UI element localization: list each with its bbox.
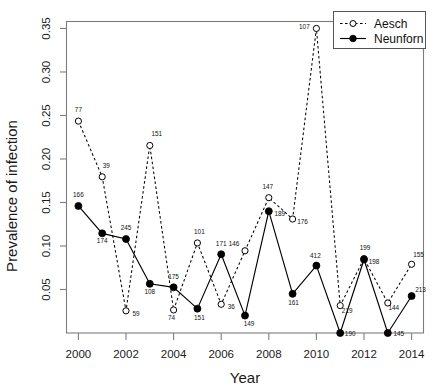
prevalence-line-chart: Prevalence of infection Year 0.050.100.1…	[0, 0, 432, 391]
data-point-neunforn-2007[interactable]	[242, 312, 249, 319]
data-point-label-neunforn-2012: 198	[369, 258, 380, 265]
x-axis-title: Year	[230, 369, 260, 386]
data-point-aesch-2002[interactable]	[123, 308, 129, 314]
data-point-label-aesch-2005: 101	[194, 228, 205, 235]
data-point-label-aesch-2010: 107	[299, 23, 310, 30]
data-point-aesch-2014[interactable]	[409, 261, 415, 267]
legend-marker-aesch	[350, 21, 356, 27]
chart-background	[0, 0, 432, 391]
data-point-neunforn-2004[interactable]	[170, 284, 177, 291]
data-point-label-neunforn-2005: 151	[194, 314, 205, 321]
data-point-neunforn-2006[interactable]	[218, 251, 225, 258]
legend: Aesch Neunforn	[334, 12, 426, 49]
data-point-label-aesch-2013: 144	[388, 304, 399, 311]
data-point-label-neunforn-2009: 161	[288, 299, 299, 306]
x-tick-label: 2000	[66, 348, 92, 360]
data-point-neunforn-2011[interactable]	[337, 330, 344, 337]
x-tick-label: 2002	[113, 348, 139, 360]
data-point-label-neunforn-2014: 213	[415, 286, 426, 293]
data-point-aesch-2005[interactable]	[194, 240, 200, 246]
data-point-aesch-2009[interactable]	[290, 216, 296, 222]
data-point-neunforn-2002[interactable]	[123, 236, 130, 243]
data-point-label-aesch-2003: 151	[151, 130, 162, 137]
data-point-aesch-2007[interactable]	[242, 248, 248, 254]
legend-marker-neunforn	[350, 35, 357, 42]
x-tick-label: 2004	[161, 348, 187, 360]
data-point-neunforn-2014[interactable]	[408, 293, 415, 300]
y-axis-title: Prevalence of infection	[3, 120, 20, 272]
data-point-label-neunforn-2001: 174	[97, 237, 108, 244]
data-point-label-neunforn-2002: 245	[121, 224, 132, 231]
data-point-label-aesch-2008: 147	[262, 183, 273, 190]
y-tick-label: 0.35	[40, 17, 52, 39]
y-tick-label: 0.05	[40, 278, 52, 300]
data-point-label-neunforn-2004: 175	[168, 273, 179, 280]
chart-container: Prevalence of infection Year 0.050.100.1…	[0, 0, 432, 391]
data-point-label-aesch-2007: 146	[229, 240, 240, 247]
data-point-neunforn-2010[interactable]	[313, 262, 320, 269]
y-tick-label: 0.30	[40, 61, 52, 83]
data-point-aesch-2010[interactable]	[313, 25, 319, 31]
x-tick-label: 2014	[399, 348, 425, 360]
x-tick-label: 2012	[351, 348, 377, 360]
data-point-label-aesch-2002: 59	[132, 310, 140, 317]
data-point-aesch-2008[interactable]	[266, 195, 272, 201]
x-tick-label: 2010	[304, 348, 330, 360]
data-point-neunforn-2005[interactable]	[194, 305, 201, 312]
data-point-label-neunforn-2008: 189	[274, 210, 285, 217]
data-point-neunforn-2009[interactable]	[289, 290, 296, 297]
data-point-neunforn-2003[interactable]	[146, 280, 153, 287]
y-tick-label: 0.20	[40, 148, 52, 170]
data-point-label-aesch-2011: 219	[342, 307, 353, 314]
data-point-aesch-2004[interactable]	[171, 307, 177, 313]
data-point-aesch-2000[interactable]	[75, 118, 81, 124]
data-point-label-neunforn-2003: 108	[144, 288, 155, 295]
data-point-aesch-2003[interactable]	[147, 142, 153, 148]
data-point-label-aesch-2000: 77	[75, 106, 83, 113]
data-point-label-aesch-2004: 74	[168, 314, 176, 321]
y-tick-label: 0.15	[40, 191, 52, 213]
y-tick-label: 0.25	[40, 104, 52, 126]
data-point-neunforn-2001[interactable]	[99, 230, 106, 237]
data-point-label-neunforn-2000: 166	[73, 191, 84, 198]
data-point-neunforn-2008[interactable]	[265, 208, 272, 215]
data-point-aesch-2001[interactable]	[99, 174, 105, 180]
x-tick-label: 2008	[256, 348, 282, 360]
legend-label-neunforn: Neunforn	[374, 32, 423, 46]
data-point-label-aesch-2014: 155	[413, 251, 424, 258]
data-point-label-neunforn-2006: 171	[216, 240, 227, 247]
data-point-label-neunforn-2013: 145	[393, 330, 404, 337]
x-tick-label: 2006	[208, 348, 234, 360]
data-point-neunforn-2012[interactable]	[361, 256, 368, 263]
data-point-neunforn-2000[interactable]	[75, 202, 82, 209]
y-tick-label: 0.10	[40, 235, 52, 257]
data-point-label-neunforn-2010: 412	[310, 252, 321, 259]
data-point-aesch-2006[interactable]	[218, 301, 224, 307]
data-point-label-aesch-2001: 39	[103, 162, 111, 169]
data-point-label-aesch-2009: 176	[297, 218, 308, 225]
legend-label-aesch: Aesch	[374, 17, 407, 31]
data-point-label-aesch-2006: 36	[228, 303, 236, 310]
data-point-label-aesch-2012: 199	[360, 244, 371, 251]
data-point-label-neunforn-2007: 149	[244, 320, 255, 327]
data-point-neunforn-2013[interactable]	[384, 330, 391, 337]
data-point-label-neunforn-2011: 190	[345, 330, 356, 337]
